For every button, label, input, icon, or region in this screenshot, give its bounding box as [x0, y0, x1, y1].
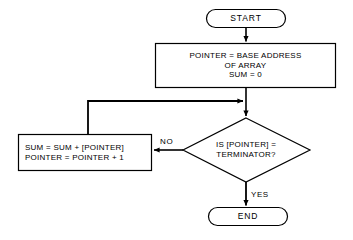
node-accumulate-shape — [19, 135, 152, 171]
edge-accumulate-to-test — [88, 101, 243, 134]
edge-label-yes: YES — [251, 190, 269, 199]
node-test-shape — [183, 118, 310, 182]
flowchart-diagram: START POINTER = BASE ADDRESS OF ARRAY SU… — [0, 0, 353, 240]
node-start-shape — [207, 10, 286, 28]
node-end-shape — [209, 208, 288, 226]
flowchart-canvas — [0, 0, 353, 240]
edge-label-no: NO — [160, 137, 173, 146]
node-init-shape — [156, 44, 336, 88]
